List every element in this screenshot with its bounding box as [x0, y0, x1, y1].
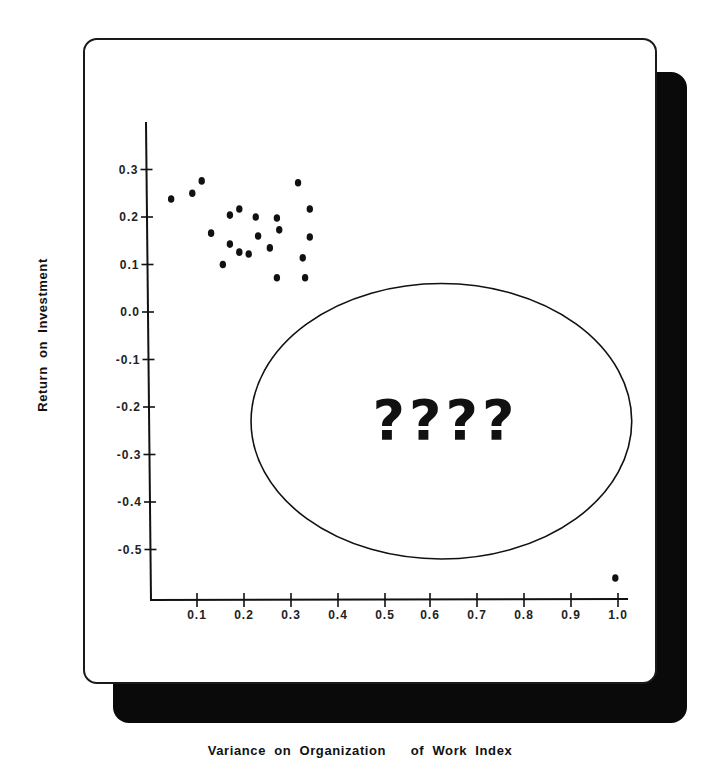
- y-tick-label: 0.3: [119, 163, 139, 177]
- y-tick-label: -0.5: [118, 543, 143, 557]
- y-tick-label: -0.1: [116, 353, 141, 367]
- question-marks-text: ????: [372, 387, 518, 452]
- axes: [146, 122, 628, 601]
- data-point: [300, 254, 306, 262]
- data-point: [307, 205, 313, 213]
- y-tick-label: -0.3: [117, 448, 142, 462]
- x-tick-label: 0.3: [281, 608, 301, 622]
- y-tick-label: 0.2: [119, 210, 139, 224]
- data-point: [276, 226, 282, 234]
- x-tick-label: 0.6: [420, 608, 440, 622]
- data-point: [307, 233, 313, 241]
- x-axis-line: [151, 599, 628, 600]
- data-point: [236, 248, 242, 256]
- data-point: [236, 205, 242, 213]
- x-tick-label: 0.1: [187, 608, 207, 622]
- x-tick-label: 0.4: [328, 608, 348, 622]
- data-point: [274, 214, 280, 222]
- data-point: [612, 574, 618, 582]
- scatter-plot: 0.30.20.10.0-0.1-0.2-0.3-0.4-0.50.10.20.…: [0, 0, 720, 773]
- x-tick-label: 0.5: [375, 608, 395, 622]
- data-point: [246, 250, 252, 258]
- data-point: [227, 240, 233, 248]
- y-tick-label: -0.2: [116, 400, 141, 414]
- x-tick-label: 0.7: [467, 608, 487, 622]
- x-axis-label: Variance on Organization of Work Index: [0, 743, 720, 758]
- data-point: [295, 179, 301, 187]
- data-point: [253, 213, 259, 221]
- data-point: [208, 229, 214, 237]
- data-points: [168, 177, 619, 582]
- unknown-region-annotation: ????: [251, 284, 632, 560]
- y-axis-label: Return on Investment: [35, 258, 50, 412]
- data-point: [267, 244, 273, 252]
- x-tick-label: 0.2: [234, 608, 254, 622]
- data-point: [302, 274, 308, 282]
- x-tick-label: 1.0: [608, 608, 628, 622]
- data-point: [168, 195, 174, 203]
- y-tick-label: 0.1: [120, 258, 140, 272]
- y-tick-label: 0.0: [120, 305, 140, 319]
- data-point: [255, 232, 261, 240]
- data-point: [220, 261, 226, 269]
- y-axis-line: [146, 122, 151, 601]
- data-point: [189, 189, 195, 197]
- data-point: [227, 211, 233, 219]
- data-point: [274, 274, 280, 282]
- data-point: [199, 177, 205, 185]
- x-tick-label: 0.9: [561, 608, 581, 622]
- x-tick-label: 0.8: [514, 608, 534, 622]
- y-tick-label: -0.4: [117, 495, 142, 509]
